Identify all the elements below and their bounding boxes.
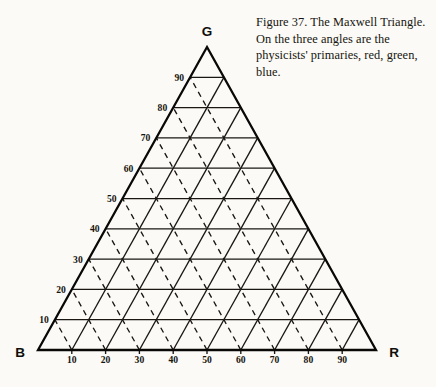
bottom-tick-label: 70 [270,354,280,365]
gridline-parallel-right [156,138,274,350]
left-tick-label: 90 [175,72,185,83]
left-tick-label: 20 [56,284,66,295]
gridline-parallel-right [55,320,72,350]
gridline-parallel-left [207,199,292,351]
bottom-tick-label: 10 [67,354,77,365]
left-tick-label: 40 [90,223,100,234]
bottom-tick-label: 30 [135,354,145,365]
gridline-parallel-right [123,199,208,351]
gridline-parallel-left [275,259,326,350]
left-tick-label: 50 [107,193,117,204]
gridline-parallel-left [342,320,359,350]
figure-page: 102030405060708090 102030405060708090 GB… [0,0,436,387]
vertex-label-green: G [202,24,213,39]
left-tick-label: 60 [124,163,134,174]
left-tick-label: 70 [141,132,151,143]
figure-caption: Figure 37. The Maxwell Triangle. On the … [256,14,432,80]
gridline-parallel-left [139,138,257,350]
left-tick-label: 10 [39,314,49,325]
vertex-label-blue: B [15,345,25,360]
vertex-label-red: R [389,345,399,360]
bottom-tick-label: 50 [202,354,212,365]
gridline-parallel-right [89,259,140,350]
bottom-tick-label: 20 [101,354,111,365]
caption-line-1: Figure 37. The Maxwell [256,15,377,29]
gridline-parallel-right [190,77,342,350]
bottom-tick-label: 90 [337,354,347,365]
bottom-tick-label: 60 [236,354,246,365]
horizontal-gridlines [55,77,359,319]
bottom-tick-label: 40 [168,354,178,365]
bottom-axis-tick-labels: 102030405060708090 [67,354,347,365]
left-tick-label: 80 [158,102,168,113]
left-tick-label: 30 [73,254,83,265]
gridline-parallel-left [72,77,224,350]
bottom-tick-label: 80 [304,354,314,365]
